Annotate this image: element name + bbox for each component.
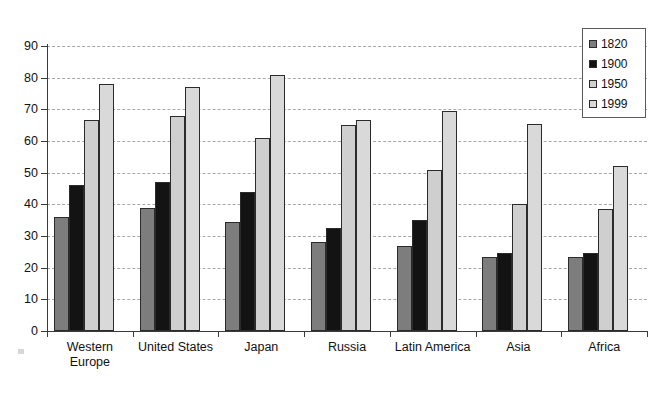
bar-1900 <box>155 182 170 331</box>
y-tick-label-50: 50 <box>0 167 38 179</box>
y-tick-label-20: 20 <box>0 262 38 274</box>
bar-1820 <box>54 217 69 331</box>
y-tick-label-60: 60 <box>0 135 38 147</box>
bar-1900 <box>326 228 341 331</box>
bar-1950 <box>598 209 613 331</box>
bar-group <box>54 46 114 331</box>
y-tick-label-70: 70 <box>0 103 38 115</box>
x-tick-mark <box>133 331 134 337</box>
bar-1820 <box>140 208 155 332</box>
y-tick-label-40: 40 <box>0 198 38 210</box>
bar-1999 <box>442 111 457 331</box>
bar-1900 <box>583 253 598 331</box>
bar-1950 <box>84 120 99 331</box>
bar-1950 <box>341 125 356 331</box>
legend-item-1900[interactable]: 1900 <box>589 54 645 74</box>
bar-1820 <box>225 222 240 331</box>
bar-1820 <box>311 242 326 331</box>
bar-1820 <box>397 246 412 332</box>
legend-label-1999: 1999 <box>601 98 627 110</box>
x-tick-mark <box>647 331 648 337</box>
y-tick-label-10: 10 <box>0 293 38 305</box>
bar-1999 <box>185 87 200 331</box>
legend-item-1820[interactable]: 1820 <box>589 34 645 54</box>
bar-1950 <box>512 204 527 331</box>
y-tick-label-90: 90 <box>0 40 38 52</box>
y-tick-label-0: 0 <box>0 325 38 337</box>
bar-1820 <box>482 257 497 331</box>
x-tick-mark <box>561 331 562 337</box>
x-tick-mark <box>390 331 391 337</box>
bar-1820 <box>568 257 583 331</box>
legend-label-1820: 1820 <box>601 38 627 50</box>
y-tick-label-30: 30 <box>0 230 38 242</box>
bar-1999 <box>613 166 628 331</box>
category-label: Africa <box>551 340 657 355</box>
bar-group <box>225 46 285 331</box>
bar-1900 <box>240 192 255 331</box>
x-axis-line <box>47 331 648 332</box>
legend-item-1950[interactable]: 1950 <box>589 74 645 94</box>
bar-1999 <box>527 124 542 331</box>
bar-group <box>397 46 457 331</box>
x-tick-mark <box>304 331 305 337</box>
chart-legend[interactable]: 1820190019501999 <box>582 28 646 118</box>
bar-1900 <box>69 185 84 331</box>
bar-group <box>140 46 200 331</box>
bar-1999 <box>99 84 114 331</box>
bar-1900 <box>412 220 427 331</box>
bar-1999 <box>356 120 371 331</box>
legend-label-1950: 1950 <box>601 78 627 90</box>
bar-chart-figure: 9080706050403020100 Western EuropeUnited… <box>0 0 660 408</box>
bar-1999 <box>270 75 285 332</box>
scan-artifact <box>18 349 24 354</box>
bar-1900 <box>497 253 512 331</box>
x-tick-mark <box>47 331 48 337</box>
legend-item-1999[interactable]: 1999 <box>589 94 645 114</box>
bar-group <box>482 46 542 331</box>
legend-swatch-icon-1820 <box>589 40 597 48</box>
y-tick-label-80: 80 <box>0 72 38 84</box>
x-tick-mark <box>476 331 477 337</box>
bar-1950 <box>427 170 442 332</box>
bar-1950 <box>255 138 270 331</box>
bar-group <box>311 46 371 331</box>
legend-label-1900: 1900 <box>601 58 627 70</box>
x-tick-mark <box>218 331 219 337</box>
legend-swatch-icon-1950 <box>589 80 597 88</box>
bar-1950 <box>170 116 185 331</box>
plot-area <box>47 46 647 331</box>
legend-swatch-icon-1999 <box>589 100 597 108</box>
legend-swatch-icon-1900 <box>589 60 597 68</box>
